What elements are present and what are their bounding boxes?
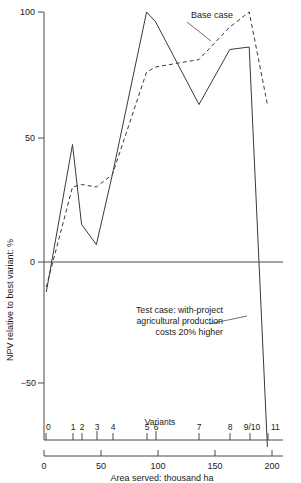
base-case-leader-line (187, 22, 211, 41)
x-tick-label-50: 50 (96, 461, 106, 471)
x-tick-label-100: 100 (150, 461, 165, 471)
base-case-label: Base case (191, 10, 233, 20)
y-tick-label-0: 0 (30, 257, 35, 267)
series-line-test-case (46, 12, 267, 447)
test-case-label-line-1: Test case: with-project (136, 305, 224, 315)
y-tick-label-50: 50 (25, 133, 35, 143)
series-line-base-case (46, 12, 267, 287)
variant-label-9-10: 9/10 (244, 422, 261, 432)
chart-figure: 100 50 0 −50 NPV relative to best varian… (0, 0, 301, 483)
y-axis-title: NPV relative to best variant: % (5, 239, 15, 361)
variant-label-6: 6 (154, 422, 159, 432)
x-tick-label-150: 150 (207, 461, 222, 471)
x-tick-label-0: 0 (41, 461, 46, 471)
variants-axis: Variants 0 1 2 3 4 5 6 7 8 9/10 11 (44, 417, 283, 440)
test-case-label-line-3: costs 20% higher (156, 327, 224, 337)
variant-label-2: 2 (80, 422, 85, 432)
annotation-test-case: Test case: with-project agricultural pro… (136, 305, 247, 337)
variant-label-5: 5 (145, 422, 150, 432)
variant-label-8: 8 (228, 422, 233, 432)
y-tick-label-minus50: −50 (21, 378, 36, 388)
annotation-base-case: Base case (187, 10, 233, 41)
y-axis: 100 50 0 −50 (20, 7, 44, 440)
variant-label-3: 3 (95, 422, 100, 432)
y-tick-label-100: 100 (20, 7, 35, 17)
variant-label-1: 1 (71, 422, 76, 432)
npv-variants-line-chart: 100 50 0 −50 NPV relative to best varian… (0, 0, 301, 483)
x-axis-title: Area served: thousand ha (110, 473, 213, 483)
variant-label-11: 11 (271, 422, 280, 432)
x-axis: 0 50 100 150 200 Area served: thousand h… (41, 450, 283, 483)
test-case-label-line-2: agricultural production (136, 316, 223, 326)
variant-label-0: 0 (46, 422, 51, 432)
variant-label-4: 4 (111, 422, 116, 432)
variant-label-7: 7 (197, 422, 202, 432)
x-tick-label-200: 200 (264, 461, 279, 471)
